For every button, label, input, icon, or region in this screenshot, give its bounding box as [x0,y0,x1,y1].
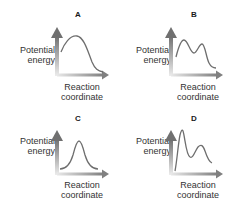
x-axis-arrow-icon [57,170,109,179]
panel-a-graphic [0,0,117,105]
panel-b-graphic [116,0,233,105]
panel-a: A Potential energy Reaction coordinate [0,0,117,105]
energy-curve [60,141,98,169]
y-axis-arrow-icon [51,130,63,175]
energy-curve [61,36,103,72]
panel-b: B Potential energy Reaction coordinate [116,0,233,105]
energy-curve [175,130,212,171]
panel-d-graphic [116,105,233,210]
y-axis-arrow-icon [165,27,177,76]
x-axis-arrow-icon [171,170,223,179]
x-axis-arrow-icon [171,71,223,80]
panel-d: D Potential energy Reaction coordinate [116,105,233,210]
panel-c: C Potential energy Reaction coordinate [0,105,117,210]
energy-curve [176,40,216,68]
panel-c-graphic [0,105,117,210]
reaction-energy-diagram-figure: A Potential energy Reaction coordinate B… [0,0,233,211]
